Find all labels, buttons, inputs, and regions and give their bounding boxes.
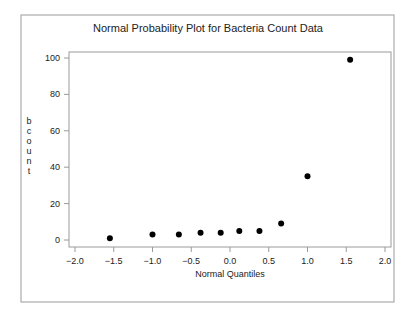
x-tick-label: −0.5 <box>182 256 200 266</box>
y-axis-label-char: n <box>26 156 31 166</box>
x-tick-label: 0.0 <box>224 256 237 266</box>
data-points <box>107 57 353 241</box>
y-tick-label: 0 <box>55 235 60 245</box>
chart-title: Normal Probability Plot for Bacteria Cou… <box>93 22 324 34</box>
data-point <box>198 230 204 236</box>
y-tick-label: 40 <box>50 162 60 172</box>
x-tick-label: −1.0 <box>144 256 162 266</box>
y-axis-label-char: u <box>26 146 31 156</box>
x-tick-label: 2.0 <box>379 256 392 266</box>
data-point <box>107 235 113 241</box>
x-tick-label: 1.5 <box>340 256 353 266</box>
x-tick-label: −2.0 <box>66 256 84 266</box>
data-point <box>218 230 224 236</box>
x-tick-label: 1.0 <box>301 256 314 266</box>
data-point <box>305 173 311 179</box>
y-tick-label: 60 <box>50 126 60 136</box>
data-point <box>236 228 242 234</box>
x-axis-label: Normal Quantiles <box>195 269 265 279</box>
y-axis: 020406080100 <box>45 53 69 245</box>
y-axis-label-char: c <box>27 126 32 136</box>
y-axis-label-char: t <box>28 166 31 176</box>
data-point <box>256 228 262 234</box>
plot-area-frame <box>69 52 391 247</box>
data-point <box>347 57 353 63</box>
y-axis-label-char: b <box>26 116 31 126</box>
y-tick-label: 20 <box>50 199 60 209</box>
normal-probability-plot: Normal Probability Plot for Bacteria Cou… <box>0 0 413 320</box>
y-axis-label-char: o <box>26 136 31 146</box>
y-tick-label: 100 <box>45 53 60 63</box>
y-axis-label: bcount <box>26 116 31 176</box>
y-tick-label: 80 <box>50 89 60 99</box>
x-tick-label: −1.5 <box>105 256 123 266</box>
x-tick-label: 0.5 <box>262 256 275 266</box>
data-point <box>150 232 156 238</box>
data-point <box>176 232 182 238</box>
data-point <box>278 221 284 227</box>
x-axis: −2.0−1.5−1.0−0.50.00.51.01.52.0 <box>66 247 391 266</box>
